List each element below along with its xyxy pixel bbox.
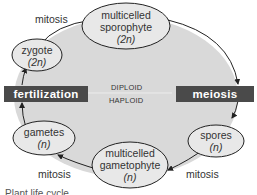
- mitosis-bottom-right-label: mitosis: [186, 168, 219, 180]
- gametophyte-ploidy: (n): [124, 171, 137, 183]
- spores-ploidy: (n): [210, 141, 223, 153]
- node-sporophyte: multicelled sporophyte (2n): [86, 7, 166, 47]
- node-zygote: zygote (2n): [12, 42, 62, 70]
- mitosis-top-label: mitosis: [35, 13, 68, 25]
- diploid-label: DIPLOID: [111, 83, 142, 92]
- node-gametes: gametes (n): [13, 124, 75, 152]
- sporophyte-ploidy: (2n): [117, 33, 136, 45]
- fertilization-bar: fertilization: [4, 86, 88, 102]
- node-spores: spores (n): [188, 127, 244, 155]
- haploid-label: HAPLOID: [109, 96, 143, 105]
- life-cycle-diagram: multicelled sporophyte (2n) zygote (2n) …: [0, 0, 257, 195]
- zygote-ploidy: (2n): [28, 56, 47, 68]
- gametophyte-label-2: gametophyte: [100, 159, 161, 171]
- figure-caption: Plant life cycle: [5, 188, 69, 195]
- gametophyte-label-1: multicelled: [105, 147, 155, 159]
- spores-label: spores: [200, 129, 232, 141]
- gametes-label: gametes: [24, 126, 64, 138]
- sporophyte-label-2: sporophyte: [100, 21, 152, 33]
- sporophyte-label-1: multicelled: [101, 9, 151, 21]
- node-gametophyte: multicelled gametophyte (n): [92, 145, 168, 185]
- gametes-ploidy: (n): [38, 138, 51, 150]
- zygote-label: zygote: [22, 44, 53, 56]
- meiosis-bar: meiosis: [176, 86, 254, 102]
- mitosis-bottom-left-label: mitosis: [38, 168, 71, 180]
